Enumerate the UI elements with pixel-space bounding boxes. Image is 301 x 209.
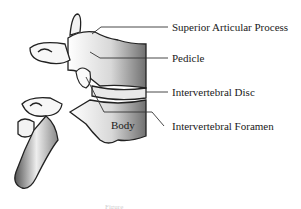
label-intervertebral-foramen: Intervertebral Foramen <box>172 121 274 132</box>
lower-vertebra <box>15 98 146 189</box>
intervertebral-disc-shape <box>92 86 146 100</box>
label-superior-articular-process: Superior Articular Process <box>172 22 288 33</box>
vertebra-diagram: Superior Articular Process Pedicle Inter… <box>0 0 301 209</box>
figure-caption: Figure <box>105 203 123 209</box>
label-body: Body <box>111 120 135 131</box>
label-intervertebral-disc: Intervertebral Disc <box>172 87 255 98</box>
intervertebral-foramen-shape <box>76 68 91 88</box>
label-pedicle: Pedicle <box>172 53 204 64</box>
